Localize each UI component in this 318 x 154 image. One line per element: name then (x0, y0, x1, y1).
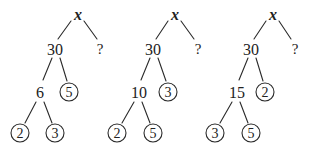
prime-value: 2 (17, 126, 24, 141)
root-variable: x (170, 6, 179, 23)
edge-root-product (254, 21, 266, 39)
prime-value: 5 (66, 85, 73, 100)
root-variable: x (268, 6, 277, 23)
edge-root-product (156, 21, 168, 39)
prime-value: 2 (114, 126, 121, 141)
edge-root-unknown (84, 21, 97, 39)
prime-value: 3 (52, 126, 59, 141)
product-node: 30 (47, 41, 63, 58)
edge-composite-leaf-1 (25, 102, 36, 123)
prime-value: 2 (262, 85, 269, 100)
factor-tree-3: x 30 ? 15 2 3 5 (206, 6, 299, 143)
root-variable: x (73, 6, 82, 23)
unknown-node: ? (195, 41, 202, 57)
edge-product-composite (239, 58, 248, 80)
edge-composite-leaf-1 (122, 102, 134, 123)
factor-tree-1: x 30 ? 6 5 2 3 (11, 6, 104, 143)
edge-composite-leaf-2 (44, 102, 52, 123)
edge-composite-leaf-2 (240, 102, 248, 123)
unknown-node: ? (292, 41, 299, 57)
prime-circle-node: 3 (46, 124, 64, 142)
prime-circle-node: 5 (60, 83, 78, 101)
prime-circle-node: 2 (11, 124, 29, 142)
prime-circle-node: 2 (108, 124, 126, 142)
edge-root-unknown (279, 21, 291, 39)
factor-tree-2: x 30 ? 10 3 2 5 (108, 6, 202, 143)
edge-root-unknown (181, 21, 194, 39)
edge-composite-leaf-1 (220, 102, 232, 123)
prime-value: 5 (150, 126, 157, 141)
composite-node: 10 (131, 84, 147, 101)
prime-circle-node: 2 (256, 83, 274, 101)
product-node: 30 (243, 41, 259, 58)
prime-circle-node: 5 (242, 124, 260, 142)
factor-tree-figure: x 30 ? 6 5 2 3 x (0, 0, 318, 154)
edge-composite-leaf-2 (142, 102, 150, 123)
prime-circle-node: 3 (206, 124, 224, 142)
unknown-node: ? (97, 41, 104, 57)
prime-circle-node: 3 (159, 83, 177, 101)
edge-product-prime (256, 58, 263, 81)
product-node: 30 (145, 41, 161, 58)
edge-product-composite (43, 58, 52, 80)
prime-circle-node: 5 (144, 124, 162, 142)
edge-root-product (58, 21, 71, 39)
prime-value: 5 (248, 126, 255, 141)
composite-node: 15 (229, 84, 245, 101)
edge-product-prime (158, 58, 166, 81)
composite-node: 6 (36, 84, 44, 101)
edge-product-prime (60, 58, 67, 81)
prime-value: 3 (212, 126, 219, 141)
prime-value: 3 (165, 85, 172, 100)
edge-product-composite (141, 58, 150, 80)
